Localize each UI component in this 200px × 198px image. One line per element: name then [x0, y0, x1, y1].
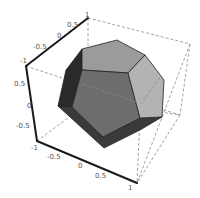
tick-label: -0.5 — [33, 43, 47, 51]
tick-label: -1 — [20, 57, 27, 65]
left-axis-ticks: 0.5 0 -0.5 -1 — [14, 80, 38, 152]
dodecahedron-3d-plot: -1 -0.5 0 0.5 1 0.5 0 -0.5 -1 -0.5 0 0.5… — [0, 0, 200, 198]
dodecahedron — [58, 40, 164, 148]
tick-label: 0 — [78, 162, 82, 170]
tick-label: 0.5 — [95, 172, 106, 180]
bottom-axis-ticks: -0.5 0 0.5 1 — [47, 153, 132, 192]
tick-label: -0.5 — [47, 153, 61, 161]
tick-label: 0.5 — [14, 80, 25, 88]
tick-label: 0 — [57, 32, 61, 40]
tick-label: 1 — [128, 184, 132, 192]
tick-label: 1 — [85, 11, 89, 19]
tick-label: -1 — [31, 144, 38, 152]
bottom-axis-line — [37, 141, 137, 183]
tick-label: -0.5 — [16, 122, 30, 130]
tick-label: 0.5 — [67, 21, 78, 29]
tick-label: 0 — [27, 102, 31, 110]
